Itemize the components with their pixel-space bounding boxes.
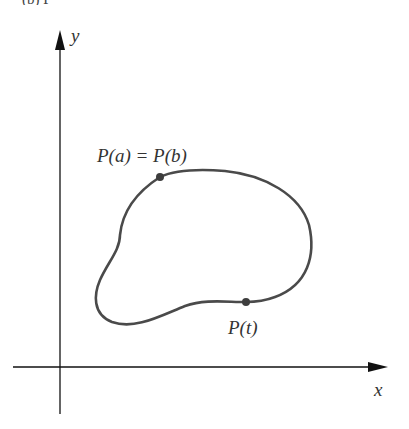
closed-curve (96, 170, 311, 324)
start-end-point-label: P(a) = P(b) (97, 146, 187, 165)
y-axis-label: y (71, 26, 79, 45)
figure: (b) P y x P(a) = P(b) P(t) (0, 0, 409, 429)
diagram-canvas (0, 0, 409, 429)
general-point-marker (242, 298, 250, 306)
y-axis (55, 30, 65, 414)
clipped-caption: (b) P (0, 0, 409, 5)
general-point-label: P(t) (228, 318, 258, 337)
x-axis-arrowhead-icon (368, 362, 388, 372)
start-end-point-marker (156, 173, 164, 181)
x-axis (13, 362, 388, 372)
y-axis-arrowhead-icon (55, 30, 65, 50)
x-axis-label: x (374, 380, 382, 399)
